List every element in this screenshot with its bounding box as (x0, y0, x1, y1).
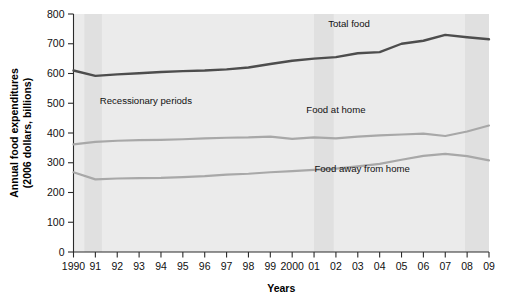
y-tick-label: 500 (47, 97, 65, 109)
chart-annotations: Recessionary periods (100, 95, 192, 106)
y-axis-title-line2: (2006 dollars, billions) (21, 78, 33, 188)
x-axis-ticks: 1990919293949596979899200001020304050607… (62, 252, 495, 272)
y-tick-label: 800 (47, 8, 65, 20)
x-tick-label: 97 (221, 260, 233, 272)
annotation-recessionary-periods: Recessionary periods (100, 95, 192, 106)
x-tick-label: 94 (155, 260, 167, 272)
x-tick-label: 09 (483, 260, 495, 272)
y-tick-label: 600 (47, 67, 65, 79)
y-tick-label: 0 (59, 246, 65, 258)
x-tick-label: 04 (374, 260, 386, 272)
x-axis-title: Years (267, 282, 295, 294)
y-axis-title-line1: Annual food expenditures (8, 68, 20, 198)
food-expenditures-chart: 0100200300400500600700800 19909192939495… (0, 0, 509, 302)
x-tick-label: 05 (396, 260, 408, 272)
y-tick-label: 400 (47, 127, 65, 139)
recession-band-1 (84, 14, 101, 252)
series-label-total-food: Total food (328, 18, 370, 29)
recession-band-2 (314, 14, 334, 252)
series-label-food-away-from-home: Food away from home (314, 163, 409, 174)
y-tick-label: 300 (47, 156, 65, 168)
y-tick-label: 100 (47, 216, 65, 228)
x-tick-label: 95 (177, 260, 189, 272)
x-tick-label: 06 (418, 260, 430, 272)
x-tick-label: 92 (111, 260, 123, 272)
x-tick-label: 1990 (62, 260, 86, 272)
x-tick-label: 98 (243, 260, 255, 272)
x-tick-label: 02 (330, 260, 342, 272)
y-tick-label: 700 (47, 37, 65, 49)
x-tick-label: 93 (133, 260, 145, 272)
x-tick-label: 99 (264, 260, 276, 272)
y-axis-title: Annual food expenditures(2006 dollars, b… (8, 68, 32, 198)
x-tick-label: 2000 (281, 260, 305, 272)
y-axis-ticks: 0100200300400500600700800 (47, 8, 74, 258)
series-label-food-at-home: Food at home (306, 104, 365, 115)
x-tick-label: 08 (461, 260, 473, 272)
x-tick-label: 91 (90, 260, 102, 272)
x-tick-label: 03 (352, 260, 364, 272)
chart-canvas: 0100200300400500600700800 19909192939495… (0, 0, 509, 302)
x-tick-label: 07 (439, 260, 451, 272)
y-tick-label: 200 (47, 186, 65, 198)
recession-band-3 (465, 14, 489, 252)
x-tick-label: 96 (199, 260, 211, 272)
x-tick-label: 01 (308, 260, 320, 272)
